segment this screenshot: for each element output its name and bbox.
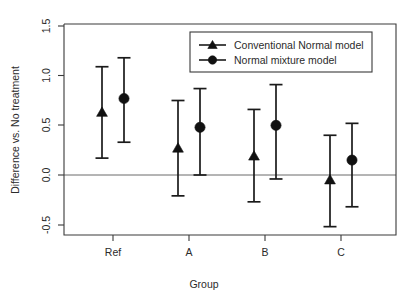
y-tick-label-0.0: 0.0 <box>40 168 52 183</box>
circle-marker-icon <box>208 56 216 64</box>
y-tick-label--0.5: -0.5 <box>40 216 52 234</box>
x-tick-label-b: B <box>261 246 268 258</box>
y-tick-label-1.0: 1.0 <box>40 68 52 83</box>
chart-container: 1.5 1.0 0.5 0.0 -0.5 Difference vs. No t… <box>0 0 408 302</box>
legend-label-conventional: Conventional Normal model <box>234 39 364 51</box>
x-tick-label-a: A <box>185 246 192 258</box>
y-axis-title: Difference vs. No treatment <box>9 66 21 194</box>
x-axis-title: Group <box>189 278 218 290</box>
x-tick-label-c: C <box>337 246 345 258</box>
circle-marker-icon <box>119 93 129 103</box>
y-tick-label-0.5: 0.5 <box>40 118 52 133</box>
y-tick-label-1.5: 1.5 <box>40 19 52 34</box>
circle-marker-icon <box>271 120 281 130</box>
x-tick-label-ref: Ref <box>105 246 121 258</box>
legend-label-mixture: Normal mixture model <box>234 54 337 66</box>
forest-plot-svg: 1.5 1.0 0.5 0.0 -0.5 Difference vs. No t… <box>0 0 408 302</box>
legend: Conventional Normal model Normal mixture… <box>190 32 372 72</box>
circle-marker-icon <box>347 155 357 165</box>
circle-marker-icon <box>195 122 205 132</box>
